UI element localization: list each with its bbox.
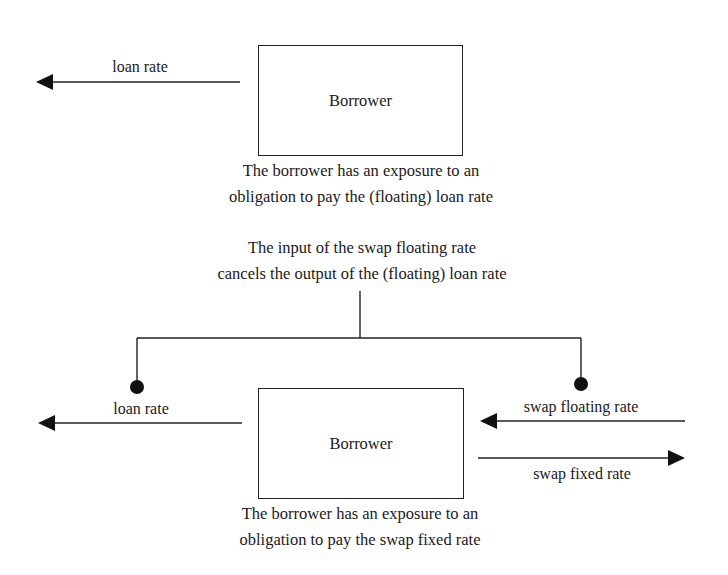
bottom-borrower-label: Borrower [329,434,392,454]
top-caption-line-1: The borrower has an exposure to an [229,158,493,184]
loan-rate-dot-icon [130,380,144,394]
bottom-caption-line-2: obligation to pay the swap fixed rate [239,527,480,553]
swap-floating-label: swap floating rate [524,399,639,415]
top-loan-rate-label: loan rate [112,59,168,75]
arrowhead-left-icon [38,415,55,431]
bottom-caption-line-1: The borrower has an exposure to an [239,501,480,527]
arrowhead-left-icon [480,413,497,429]
bottom-borrower-box: Borrower [258,388,464,499]
swap-floating-arrow [480,413,685,429]
top-borrower-label: Borrower [329,91,392,111]
middle-note-line-1: The input of the swap floating rate [217,235,506,261]
top-loan-rate-arrow [36,74,240,90]
top-caption: The borrower has an exposure to an oblig… [229,158,493,210]
bottom-loan-rate-arrow [38,415,242,431]
arrowhead-right-icon [668,450,685,466]
middle-note-line-2: cancels the output of the (floating) loa… [217,261,506,287]
top-caption-line-2: obligation to pay the (floating) loan ra… [229,184,493,210]
middle-note: The input of the swap floating rate canc… [217,235,506,287]
top-borrower-box: Borrower [258,45,463,156]
bottom-caption: The borrower has an exposure to an oblig… [239,501,480,553]
arrowhead-left-icon [36,74,53,90]
swap-floating-dot-icon [574,377,588,391]
bottom-loan-rate-label: loan rate [113,401,169,417]
swap-fixed-label: swap fixed rate [533,466,631,482]
cancel-connector [130,291,588,394]
swap-fixed-arrow [478,450,685,466]
